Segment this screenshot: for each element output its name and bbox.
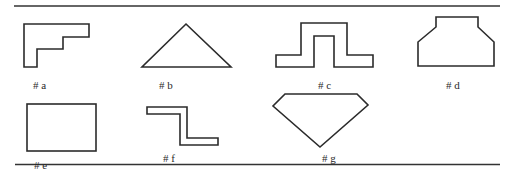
shape-figure-svg [0, 0, 517, 178]
label-d: # d [446, 79, 460, 91]
shape-figure: # a # b # c # d # e # f # g [0, 0, 517, 178]
shape-f [147, 107, 218, 145]
shape-d [418, 17, 494, 66]
shape-b [142, 24, 231, 67]
label-e: # e [34, 159, 47, 171]
shape-g [273, 94, 368, 147]
shape-c [276, 23, 373, 67]
label-g: # g [322, 152, 336, 164]
label-c: # c [318, 79, 331, 91]
shape-e [27, 104, 96, 151]
label-b: # b [159, 79, 173, 91]
label-a: # a [33, 79, 46, 91]
shape-a [24, 24, 89, 67]
label-f: # f [163, 152, 175, 164]
